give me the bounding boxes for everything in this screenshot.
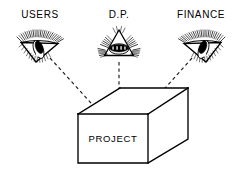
eye-icon-users: [17, 30, 64, 63]
box-label-project: PROJECT: [88, 133, 137, 144]
perspectives-diagram: USERS D.P. FINANCE: [0, 0, 239, 178]
label-finance: FINANCE: [177, 9, 225, 20]
diagram-canvas: USERS D.P. FINANCE: [0, 0, 239, 178]
eye-icon-dp: [98, 27, 140, 58]
label-dp: D.P.: [109, 9, 130, 20]
label-users: USERS: [21, 9, 58, 20]
project-box: PROJECT: [78, 88, 188, 163]
eye-icon-finance: [179, 30, 226, 63]
